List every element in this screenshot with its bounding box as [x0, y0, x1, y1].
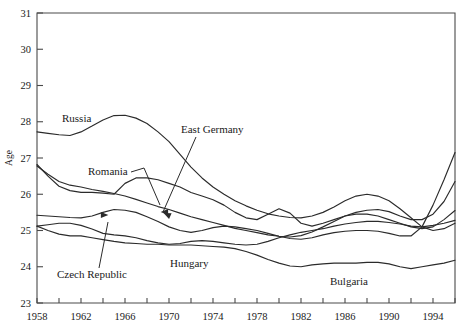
series-label-romania: Romania	[88, 165, 128, 177]
x-tick-label: 1966	[115, 311, 136, 322]
y-tick-label: 29	[21, 80, 32, 91]
y-axis-tick-labels: 232425262728293031	[21, 8, 32, 309]
x-tick-label: 1986	[335, 311, 356, 322]
line-chart: 232425262728293031 195819621966197019741…	[0, 0, 467, 330]
annotation-arrowhead	[101, 212, 109, 218]
y-axis-ticks	[37, 13, 43, 303]
series-label-hungary: Hungary	[170, 257, 209, 269]
series-label-russia: Russia	[62, 112, 91, 124]
y-axis-title: Age	[4, 150, 14, 166]
plot-frame	[37, 13, 455, 303]
y-tick-label: 27	[21, 153, 32, 164]
series-label-bulgaria: Bulgaria	[330, 275, 368, 287]
x-tick-label: 1958	[27, 311, 48, 322]
y-tick-label: 23	[21, 298, 32, 309]
x-tick-label: 1994	[423, 311, 445, 322]
x-tick-label: 1974	[203, 311, 225, 322]
y-tick-label: 25	[21, 225, 32, 236]
x-tick-label: 1962	[71, 311, 92, 322]
data-series-group	[37, 115, 455, 268]
x-tick-label: 1970	[159, 311, 180, 322]
y-tick-label: 30	[21, 44, 32, 55]
leader-czech-republic	[99, 222, 108, 268]
series-label-czech-republic: Czech Republic	[57, 268, 127, 280]
series-label-east-germany: East Germany	[181, 123, 244, 135]
leader-east-germany	[163, 137, 196, 212]
y-tick-label: 28	[21, 116, 32, 127]
x-tick-label: 1990	[379, 311, 400, 322]
axis-frame	[37, 13, 455, 303]
series-line-hungary	[37, 220, 455, 245]
x-axis-tick-labels: 1958196219661970197419781982198619901994	[27, 311, 445, 322]
chart-canvas: 232425262728293031 195819621966197019741…	[0, 0, 467, 330]
x-axis-ticks	[37, 298, 455, 303]
y-tick-label: 24	[21, 261, 32, 272]
y-tick-label: 26	[21, 189, 32, 200]
y-tick-label: 31	[21, 8, 32, 19]
x-tick-label: 1978	[247, 311, 268, 322]
x-tick-label: 1982	[291, 311, 312, 322]
